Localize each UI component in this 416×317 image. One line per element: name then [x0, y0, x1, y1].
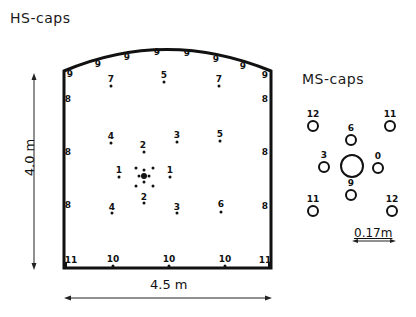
- hs-cap-label: 6: [218, 200, 224, 209]
- hs-cap-label: 5: [217, 130, 223, 139]
- arrow-up-icon: [32, 73, 37, 80]
- hs-cap-label: 8: [262, 95, 268, 104]
- hs-cap-label: 10: [163, 255, 176, 264]
- cap-position-dot: [176, 212, 179, 215]
- cap-position-dot: [110, 85, 113, 88]
- arrow-down-icon: [32, 263, 37, 270]
- hs-cap-label: 10: [107, 255, 120, 264]
- cap-position-dot: [118, 176, 121, 179]
- hs-cap-label: 7: [216, 75, 222, 84]
- cap-position-dot: [135, 185, 138, 188]
- hs-cap-label: 8: [65, 148, 71, 157]
- hs-cap-label: 9: [184, 49, 190, 58]
- hs-cap-label: 11: [65, 256, 78, 265]
- ms-cap-label: 11: [307, 195, 320, 204]
- ms-cap-label: 6: [348, 124, 354, 133]
- hs-cap-label: 9: [124, 53, 130, 62]
- tunnel-outline: [64, 50, 271, 269]
- hs-cap-label: 8: [262, 148, 268, 157]
- hs-cap-label: 5: [161, 71, 167, 80]
- cap-position-dot: [143, 151, 146, 154]
- hs-cap-label: 9: [240, 62, 246, 71]
- cap-position-dot: [143, 169, 146, 172]
- hs-cap-label: 1: [116, 166, 122, 175]
- hs-cap-label: 11: [259, 256, 272, 265]
- cap-position-dot: [169, 176, 172, 179]
- cap-position-dot: [148, 175, 151, 178]
- cap-position-dot: [168, 265, 171, 268]
- center-borehole-dot: [141, 173, 147, 179]
- hs-cap-label: 3: [174, 131, 180, 140]
- cap-position-dot: [220, 211, 223, 214]
- ms-cap-hole: [386, 205, 398, 217]
- cap-position-dot: [224, 265, 227, 268]
- scale-label: 0.17m: [354, 226, 392, 240]
- ms-cap-label: 12: [386, 195, 399, 204]
- hs-cap-label: 2: [141, 193, 147, 202]
- cap-position-dot: [143, 202, 146, 205]
- hs-cap-label: 7: [108, 75, 114, 84]
- cap-position-dot: [218, 85, 221, 88]
- ms-cap-label: 0: [375, 152, 381, 161]
- ms-cap-hole: [345, 134, 357, 146]
- width-label: 4.5 m: [150, 277, 187, 292]
- ms-cap-hole: [318, 161, 330, 173]
- hs-cap-label: 1: [167, 166, 173, 175]
- ms-cap-hole: [345, 189, 357, 201]
- ms-cap-hole: [307, 120, 319, 132]
- cap-position-dot: [176, 141, 179, 144]
- hs-cap-label: 2: [140, 141, 146, 150]
- hs-cap-label: 9: [67, 70, 73, 79]
- hs-cap-label: 3: [174, 203, 180, 212]
- cap-position-dot: [111, 212, 114, 215]
- hs-cap-label: 10: [219, 255, 232, 264]
- ms-cap-label: 11: [384, 110, 397, 119]
- hs-cap-label: 9: [262, 71, 268, 80]
- hs-cap-label: 8: [65, 95, 71, 104]
- ms-center-hole: [340, 154, 364, 178]
- ms-cap-hole: [384, 120, 396, 132]
- hs-cap-label: 8: [262, 202, 268, 211]
- hs-cap-label: 4: [109, 203, 115, 212]
- cap-position-dot: [135, 167, 138, 170]
- ms-cap-label: 9: [348, 179, 354, 188]
- hs-cap-label: 8: [65, 201, 71, 210]
- hs-cap-label: 9: [154, 48, 160, 57]
- height-label: 4.0 m: [22, 138, 37, 178]
- hs-cap-label: 9: [95, 60, 101, 69]
- cap-position-dot: [219, 140, 222, 143]
- arrow-left-icon: [64, 296, 71, 301]
- ms-cap-hole: [372, 162, 384, 174]
- cap-position-dot: [152, 167, 155, 170]
- cap-position-dot: [143, 181, 146, 184]
- hs-cap-label: 4: [108, 132, 114, 141]
- cap-position-dot: [110, 142, 113, 145]
- ms-cap-label: 12: [307, 110, 320, 119]
- hs-cap-label: 9: [213, 55, 219, 64]
- cap-position-dot: [163, 81, 166, 84]
- ms-cap-label: 3: [321, 151, 327, 160]
- cap-position-dot: [112, 265, 115, 268]
- cap-position-dot: [152, 185, 155, 188]
- arrow-right-icon: [265, 296, 272, 301]
- ms-cap-hole: [307, 205, 319, 217]
